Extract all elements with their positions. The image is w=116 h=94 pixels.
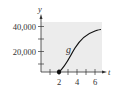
- x-tick-label-6: 6: [93, 77, 97, 87]
- x-tick-label-4: 4: [75, 77, 80, 87]
- x-tick-label-2: 2: [57, 77, 61, 87]
- y-tick-label-20000: 20,000: [13, 47, 36, 57]
- y-tick-label-40000: 40,000: [13, 22, 36, 32]
- chart: y t 40,000 20,000 2 4 6 g: [0, 0, 116, 94]
- x-axis-arrow-icon: [102, 71, 107, 74]
- start-point-marker: [57, 70, 61, 74]
- plot-background: [41, 22, 102, 72]
- y-axis-label: y: [37, 4, 42, 14]
- y-axis-arrow-icon: [40, 14, 43, 19]
- x-axis-label: t: [108, 67, 111, 77]
- curve-label: g: [66, 44, 71, 55]
